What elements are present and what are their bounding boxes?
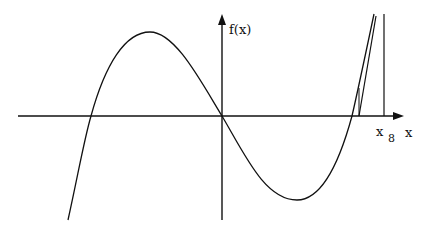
y-axis-arrow-icon <box>218 14 226 25</box>
x-axis-arrow-icon <box>393 112 404 120</box>
newton-method-diagram: f(x) x 8 x <box>0 0 446 232</box>
point-label: x <box>376 124 384 139</box>
tangent-line <box>359 16 376 116</box>
y-axis-label: f(x) <box>229 22 251 37</box>
function-curve <box>68 14 374 220</box>
x-axis-label: x <box>405 125 413 140</box>
point-subscript: 8 <box>388 132 395 145</box>
